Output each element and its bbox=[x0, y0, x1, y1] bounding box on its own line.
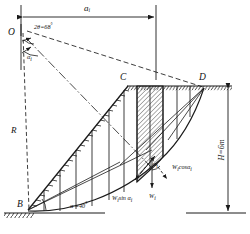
slope-face-hatch-ticks bbox=[32, 90, 129, 206]
label-height-dimension: H=6m bbox=[217, 139, 226, 161]
top-dimension-label: ai bbox=[84, 3, 91, 13]
label-force-normal: Wicosαi bbox=[172, 163, 192, 172]
label-central-angle: 2θ=68° bbox=[34, 22, 53, 31]
ray-D-3 bbox=[168, 88, 204, 140]
label-point-B: B bbox=[17, 199, 23, 209]
label-point-D: D bbox=[198, 72, 206, 82]
label-alpha-i-at-O: αi bbox=[27, 53, 32, 62]
figure-canvas: ai O 2θ=68° αi R bbox=[0, 0, 250, 234]
highlighted-slice bbox=[137, 86, 163, 182]
label-point-C: C bbox=[120, 72, 127, 82]
label-point-O: O bbox=[8, 27, 15, 37]
slope-stability-diagram: ai O 2θ=68° αi R bbox=[0, 0, 250, 234]
height-dimension-group: H=6m bbox=[217, 89, 228, 211]
ground-hatch-left bbox=[4, 213, 34, 218]
slice-lines-group bbox=[44, 86, 190, 211]
label-force-weight: Wi bbox=[149, 192, 156, 201]
label-slope-angle: α =40° bbox=[70, 201, 87, 210]
radius-line-OD bbox=[27, 31, 203, 87]
radius-bisector-line bbox=[27, 39, 152, 168]
label-radius-R: R bbox=[10, 125, 17, 135]
label-force-tangential: Wisin αi bbox=[112, 194, 133, 203]
ground-line-group bbox=[4, 213, 246, 218]
top-dimension-group: ai bbox=[21, 3, 156, 80]
slip-surface-arc bbox=[28, 88, 204, 211]
